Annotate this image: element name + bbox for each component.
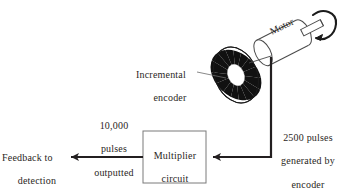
multiplier-box-label: Multiplier circuit × 4: [145, 138, 205, 191]
pulses-outputted-line2: pulses: [101, 143, 127, 154]
multiplier-line2: circuit: [162, 173, 189, 184]
feedback-label: Feedback to detection circuitry: [2, 140, 72, 191]
feedback-line2: detection: [2, 175, 72, 187]
multiplier-line1: Multiplier: [154, 150, 197, 161]
incremental-encoder-label-line2: encoder: [134, 92, 212, 104]
pulses-generated-label: 2500 pulses generated by encoder: [272, 120, 344, 191]
pulses-outputted-line1: 10,000: [100, 120, 129, 131]
pulses-outputted-label: 10,000 pulses outputted: [78, 108, 150, 179]
figure-canvas: Motor Incremental encoder 2500 pulses ge…: [0, 0, 346, 191]
pulses-generated-line3: encoder: [291, 179, 324, 190]
pulses-outputted-line3: outputted: [94, 167, 134, 178]
pulses-generated-line1: 2500 pulses: [283, 132, 333, 143]
incremental-encoder-label-line1: Incremental: [134, 69, 212, 81]
feedback-line1: Feedback to: [2, 152, 72, 164]
pulses-generated-line2: generated by: [281, 155, 335, 166]
